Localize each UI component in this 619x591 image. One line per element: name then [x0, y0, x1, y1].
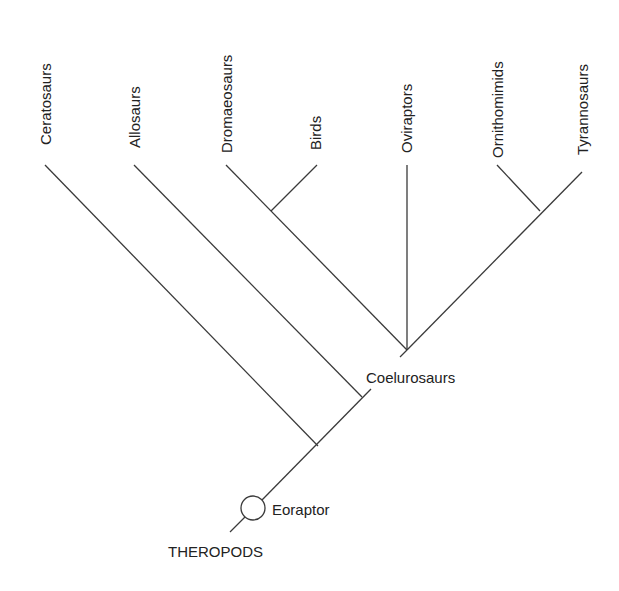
taxon-label-oviraptors: Oviraptors	[399, 84, 414, 153]
root-stem	[230, 517, 245, 532]
branch-tyrannosaurs	[407, 172, 582, 350]
branch-allosaurs	[134, 165, 362, 397]
root-label-theropods: THEROPODS	[168, 544, 263, 559]
ancestor-label-eoraptor: Eoraptor	[272, 502, 330, 517]
branch-ceratosaurs	[45, 165, 318, 446]
branch-birds	[271, 165, 317, 211]
branch-dromaeosaurs	[226, 165, 407, 350]
coelurosaur-node-tick	[400, 350, 407, 357]
taxon-label-dromaeosaurs: Dromaeosaurs	[219, 55, 234, 153]
eoraptor-node-circle	[241, 496, 265, 520]
taxon-label-ornithomimids: Ornithomimids	[490, 61, 505, 158]
taxon-label-allosaurs: Allosaurs	[127, 86, 142, 148]
taxon-label-ceratosaurs: Ceratosaurs	[38, 63, 53, 145]
branch-ornithomimids	[497, 165, 540, 211]
taxon-label-tyrannosaurs: Tyrannosaurs	[575, 64, 590, 155]
cladogram: Ceratosaurs Allosaurs Dromaeosaurs Birds…	[0, 0, 619, 591]
clade-label-coelurosaurs: Coelurosaurs	[366, 370, 455, 385]
taxon-label-birds: Birds	[308, 116, 323, 150]
